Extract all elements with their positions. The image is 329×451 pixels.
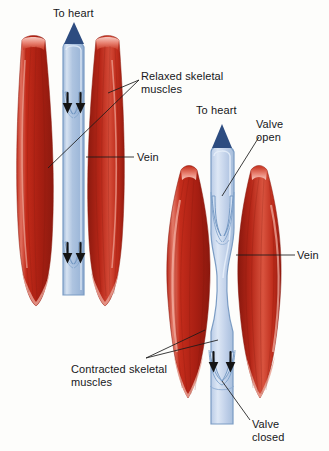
relaxed-muscle-right <box>88 36 125 307</box>
label-contracted-skeletal-muscles: Contracted skeletal muscles <box>71 363 167 388</box>
contracted-muscle-left <box>167 166 210 399</box>
label-valve-closed: Valve closed <box>252 418 284 443</box>
label-valve-open: Valve open <box>256 118 283 143</box>
label-vein-right: Vein <box>297 249 319 262</box>
label-to-heart-right: To heart <box>196 104 237 117</box>
relaxed-muscle-panel <box>17 22 125 306</box>
label-vein-left: Vein <box>137 151 159 164</box>
label-relaxed-skeletal-muscles: Relaxed skeletal muscles <box>141 70 223 95</box>
label-to-heart-left: To heart <box>53 7 94 20</box>
contracted-muscle-right <box>238 166 281 399</box>
contracted-muscle-panel <box>167 124 281 424</box>
relaxed-muscle-left <box>17 36 54 307</box>
